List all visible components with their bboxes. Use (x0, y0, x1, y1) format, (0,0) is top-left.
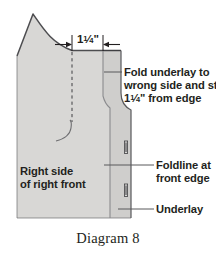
callout-foldline: Foldline atfront edge (156, 159, 211, 185)
garment-pattern-drawing (0, 0, 216, 255)
buttonhole-upper (124, 141, 127, 154)
body-label-line1: Right side (20, 165, 73, 177)
dimension-arrow-right (103, 42, 120, 47)
label-right-side-of-right-front: Right sideof right front (20, 165, 86, 191)
body-label-line2: of right front (20, 178, 86, 190)
callout-fold-line1: Fold underlay to (124, 66, 209, 78)
buttonhole-lower (124, 184, 127, 197)
callout-fold-line2: wrong side and stitch (124, 79, 216, 91)
diagram-figure: 11⁄4" Fold underlay towrong side and sti… (0, 0, 216, 255)
callout-foldline-line2: front edge (156, 172, 210, 184)
figure-caption: Diagram 8 (0, 230, 216, 247)
dimension-numerator: 1 (83, 34, 87, 43)
callout-foldline-line1: Foldline at (156, 159, 211, 171)
callout-underlay-line1: Underlay (156, 203, 203, 215)
callout-fold-line3-num: 1 (130, 93, 134, 102)
dimension-label: 11⁄4" (77, 33, 99, 46)
callout-fold-underlay: Fold underlay towrong side and stitch11⁄… (124, 66, 216, 105)
dimension-unit: " (93, 33, 98, 45)
callout-fold-line3-rest: " from edge (140, 92, 201, 104)
callout-underlay: Underlay (156, 203, 203, 216)
